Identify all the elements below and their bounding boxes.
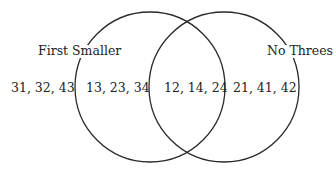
set-label-first-smaller: First Smaller (36, 45, 123, 58)
region-outside: 31, 32, 43 (11, 82, 75, 95)
set-label-no-threes: No Threes (265, 45, 335, 58)
region-both: 12, 14, 24 (164, 82, 228, 95)
region-first-only: 13, 23, 34 (86, 82, 150, 95)
region-second-only: 21, 41, 42 (233, 82, 297, 95)
